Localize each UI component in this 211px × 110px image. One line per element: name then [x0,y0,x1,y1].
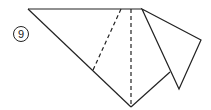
valley-fold-line-diagonal [93,9,121,70]
left-diagonal-edge [28,9,131,107]
bottom-right-edge [131,72,170,107]
right-flap [142,9,201,89]
origami-diagram [0,0,211,110]
